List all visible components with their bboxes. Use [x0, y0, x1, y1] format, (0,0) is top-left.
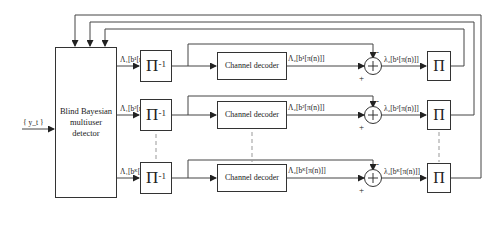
decoder-output-1: Λ₂[b¹[π(n)]]	[288, 54, 325, 63]
minus-sign-k: -	[376, 159, 379, 169]
detector-label: Blind Bayesian multiuser detector	[58, 106, 114, 139]
extrinsic-2: λ₂[b²[π(n)]]	[384, 104, 419, 113]
decoder-output-k: Λ₂[bᴷ[π(n)]]	[288, 166, 326, 175]
plus-sign-2: +	[359, 122, 364, 132]
channel-decoder-k: Channel decoder	[217, 164, 287, 192]
extrinsic-k: λ₂[bᴷ[π(n)]]	[384, 167, 420, 176]
channel-decoder-2: Channel decoder	[217, 101, 287, 129]
input-label: { y_t }	[23, 118, 44, 127]
interleaver-2: Π	[427, 100, 451, 130]
extrinsic-1: λ₂[b¹[π(n)]]	[384, 55, 419, 64]
interleaver-k: Π	[427, 163, 451, 193]
minus-sign-2: -	[376, 96, 379, 106]
plus-sign-1: +	[359, 73, 364, 83]
deinterleaver-2: Π-1	[140, 99, 172, 131]
decoder-output-2: Λ₂[b²[π(n)]]	[288, 103, 325, 112]
deinterleaver-k: Π-1	[140, 162, 172, 194]
blind-bayesian-detector: Blind Bayesian multiuser detector	[55, 47, 117, 198]
deinterleaver-1: Π-1	[140, 50, 172, 82]
minus-sign-1: -	[376, 47, 379, 57]
channel-decoder-1: Channel decoder	[217, 52, 287, 80]
interleaver-1: Π	[427, 51, 451, 81]
plus-sign-k: +	[359, 185, 364, 195]
